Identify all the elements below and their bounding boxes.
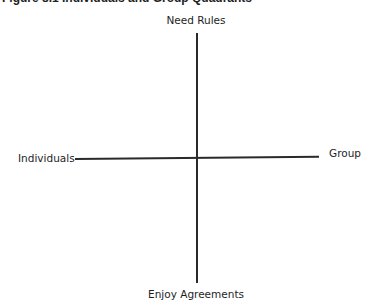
- figure-caption: Figure 8.1 Individuals and Group Quadran…: [2, 0, 252, 5]
- axis-label-individuals: Individuals: [18, 152, 75, 164]
- axis-label-need-rules: Need Rules: [166, 14, 225, 26]
- axis-label-group: Group: [329, 147, 361, 159]
- axis-label-enjoy-agreements: Enjoy Agreements: [148, 288, 244, 300]
- figure-caption-clip: Figure 8.1 Individuals and Group Quadran…: [0, 0, 382, 5]
